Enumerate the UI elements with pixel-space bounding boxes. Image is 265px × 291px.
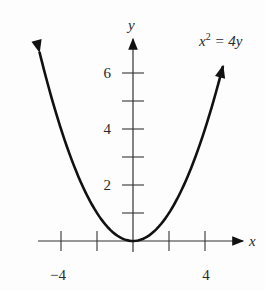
x-tick-label-neg4: −4 [50, 267, 66, 283]
plot-area: y x x2 = 4y −4 4 6 4 2 [0, 0, 265, 291]
y-tick-label-4: 4 [104, 121, 112, 137]
equation-rest: = 4y [211, 33, 243, 49]
x-axis-label: x [248, 233, 256, 249]
y-tick-label-6: 6 [104, 65, 112, 81]
equation-label: x2 = 4y [198, 31, 243, 49]
x-tick-label-4: 4 [202, 267, 210, 283]
y-axis-label: y [126, 17, 135, 33]
y-tick-label-2: 2 [104, 177, 112, 193]
parabola-chart: y x x2 = 4y −4 4 6 4 2 [0, 0, 265, 291]
